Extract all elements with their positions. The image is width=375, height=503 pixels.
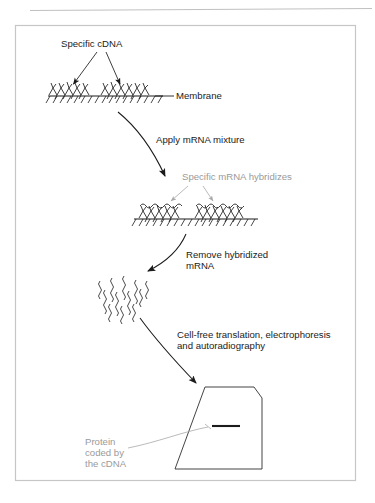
- label-protein-line2: coded by: [85, 447, 124, 459]
- label-membrane: Membrane: [176, 90, 222, 102]
- figure-canvas: Specific cDNA Membrane Apply mRNA mixtur…: [0, 0, 375, 503]
- label-protein-line1: Protein: [85, 436, 115, 448]
- page-header-rule: [30, 9, 372, 11]
- label-cellfree-translation-line2: and autoradiography: [177, 340, 265, 352]
- label-protein-line3: the cDNA: [85, 458, 126, 470]
- label-cellfree-translation-line1: Cell-free translation, electrophoresis: [177, 329, 331, 341]
- label-remove-hybridized-mrna-line1: Remove hybridized: [186, 249, 268, 261]
- label-remove-hybridized-mrna-line2: mRNA: [186, 260, 214, 272]
- label-specific-cdna: Specific cDNA: [61, 38, 122, 50]
- label-apply-mrna-mixture: Apply mRNA mixture: [156, 134, 245, 146]
- label-specific-mrna-hybridizes: Specific mRNA hybridizes: [182, 171, 292, 183]
